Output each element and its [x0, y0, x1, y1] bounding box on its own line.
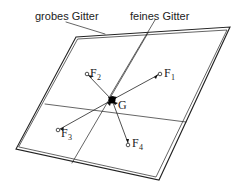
- point-f1: [158, 72, 162, 76]
- center-node: [109, 97, 116, 104]
- arrow-f1: [112, 75, 158, 100]
- point-f2: [85, 72, 89, 76]
- label-f4: F: [132, 136, 139, 150]
- label-f3: F: [61, 126, 68, 140]
- label-fine-grid: feines Gitter: [130, 10, 190, 22]
- label-f3-sub: 3: [68, 133, 72, 142]
- label-f1-sub: 1: [171, 73, 175, 82]
- label-f4-sub: 4: [139, 143, 143, 152]
- leader-coarse: [66, 22, 105, 34]
- leader-fine: [110, 20, 155, 96]
- point-f4: [126, 143, 130, 147]
- grid-line-horizontal: [45, 104, 186, 122]
- label-f1: F: [164, 66, 171, 80]
- point-f3: [56, 128, 60, 132]
- label-f2-sub: 2: [97, 73, 101, 82]
- label-g: G: [118, 98, 127, 112]
- arrow-f3: [60, 100, 112, 129]
- label-coarse-grid: grobes Gitter: [35, 10, 99, 22]
- label-f2: F: [90, 66, 97, 80]
- grid-diagram: grobes Gitter feines Gitter G F 1 F 2 F …: [0, 0, 244, 193]
